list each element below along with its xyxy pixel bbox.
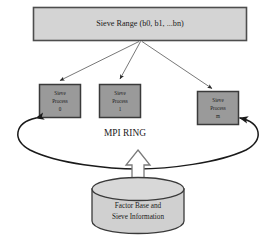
datastore-label-line2: Sieve Information	[112, 213, 165, 221]
datastore-label-line1: Factor Base and	[115, 202, 162, 210]
sieve-process-m-label-line2: Process	[210, 105, 226, 111]
sieve-process-m-box[interactable]: Sieve Process m	[198, 92, 239, 125]
sieve-process-1-label-line1: Sieve	[114, 90, 126, 96]
sieve-process-0-label-line1: Sieve	[54, 90, 66, 96]
sieve-process-1-label-line2: Process	[112, 98, 128, 104]
sieve-process-1-box[interactable]: Sieve Process 1	[100, 85, 141, 118]
sieve-process-1-label-line3: 1	[119, 106, 122, 112]
sieve-range-box: Sieve Range (b0, b1, ...bn)	[34, 8, 247, 41]
sieve-range-label: Sieve Range (b0, b1, ...bn)	[96, 19, 184, 28]
sieve-process-0-box[interactable]: Sieve Process 0	[40, 85, 81, 118]
factor-base-datastore: Factor Base and Sieve Information	[92, 178, 184, 234]
sieve-process-0-label-line3: 0	[59, 106, 62, 112]
mpi-ring-label: MPI RING	[104, 128, 146, 138]
distribution-arrow-to-process-m	[142, 42, 212, 89]
architecture-diagram: Sieve Range (b0, b1, ...bn) Sieve Proces…	[0, 0, 276, 240]
sieve-process-m-label-line3: m	[216, 113, 220, 119]
distribution-arrow-to-process-0	[60, 42, 139, 81]
diagram-canvas: Sieve Range (b0, b1, ...bn) Sieve Proces…	[0, 0, 276, 240]
distribution-arrows	[60, 42, 212, 89]
datastore-top-ellipse	[92, 178, 184, 201]
distribution-arrow-to-process-1	[120, 42, 141, 80]
sieve-process-m-label-line1: Sieve	[212, 97, 224, 103]
sieve-process-0-label-line2: Process	[52, 98, 68, 104]
